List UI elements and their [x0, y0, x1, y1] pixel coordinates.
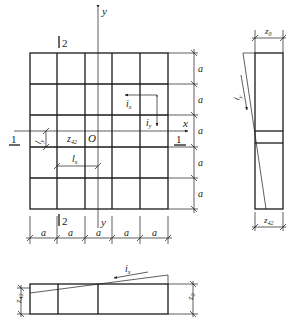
- origin-label: O: [88, 132, 96, 144]
- section-1-label-right: 1: [176, 133, 182, 145]
- section-2-label-bottom: 2: [62, 215, 68, 227]
- dim-a: a: [96, 227, 101, 238]
- section-1-label-left: 1: [11, 133, 17, 145]
- slope-arrows: ix iy: [125, 95, 157, 129]
- section-bottom-slope-arrow: [114, 272, 148, 278]
- diagram-canvas: y y x O 2 2 1 1 ix iy ly z42 lx: [0, 0, 294, 330]
- slope-y-label: iy: [146, 117, 152, 129]
- section-right-slope-label: iy: [231, 93, 243, 101]
- dim-a: a: [198, 94, 203, 105]
- section-bottom-outline: [30, 284, 168, 314]
- section-marks: 2 2 1 1: [9, 36, 186, 227]
- section-bottom-left-dim: z42: [13, 293, 24, 304]
- dim-a: a: [198, 63, 203, 74]
- x-axis-label: x: [182, 117, 188, 129]
- bottom-dimension-chain: a a a a a: [26, 216, 172, 244]
- section-right-top-dim: z0: [264, 26, 272, 37]
- length-y-label: ly: [33, 137, 45, 146]
- axes: y y x O: [14, 5, 188, 228]
- section-2-label-top: 2: [62, 37, 68, 49]
- section-bottom-right-dim: z0: [185, 293, 196, 301]
- section-bottom: ix z42 z0: [13, 263, 198, 317]
- dim-a: a: [41, 227, 46, 238]
- length-x-dimension: lx: [54, 153, 101, 169]
- section-right: z0 z42 iy: [231, 26, 286, 231]
- section-right-slope-arrow: [241, 75, 247, 110]
- section-bottom-slope-label: ix: [125, 263, 131, 275]
- y-axis-label-top: y: [101, 5, 107, 17]
- section-right-bottom-dim: z42: [263, 215, 274, 226]
- dim-a: a: [198, 188, 203, 199]
- dim-a: a: [124, 227, 129, 238]
- slope-x-label: ix: [126, 98, 132, 110]
- dim-a: a: [198, 125, 203, 136]
- dim-a: a: [152, 227, 157, 238]
- dim-a: a: [198, 157, 203, 168]
- length-x-label: lx: [72, 153, 78, 165]
- dim-a: a: [68, 227, 73, 238]
- point-z42-label: z42: [66, 133, 77, 145]
